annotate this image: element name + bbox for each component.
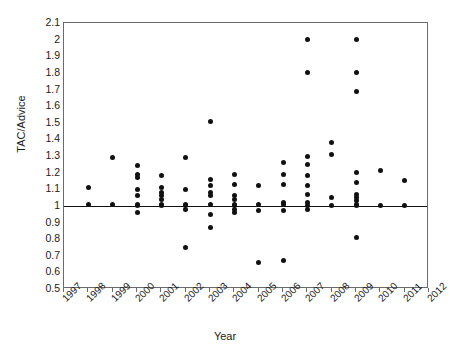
x-tickmark-1999 [112, 288, 113, 292]
data-point [208, 183, 213, 188]
data-point [402, 203, 407, 208]
x-tickmark-2004 [233, 288, 234, 292]
data-point [354, 170, 359, 175]
data-point [135, 187, 140, 192]
data-point [281, 202, 286, 207]
x-tickmark-2010 [379, 288, 380, 292]
y-tick-0-7: 0.7 [14, 250, 60, 261]
data-point [281, 258, 286, 263]
data-point [305, 162, 310, 167]
data-point [402, 178, 407, 183]
data-point [110, 155, 115, 160]
data-point [86, 185, 91, 190]
data-point [305, 207, 310, 212]
data-point [232, 197, 237, 202]
x-tickmark-2001 [160, 288, 161, 292]
x-tickmark-2008 [331, 288, 332, 292]
data-point [208, 212, 213, 217]
y-tick-1-4: 1.4 [14, 133, 60, 144]
data-point [208, 119, 213, 124]
y-tick-1: 1 [14, 200, 60, 211]
x-tickmark-2006 [282, 288, 283, 292]
reference-line-at-one [64, 206, 427, 207]
data-point [305, 70, 310, 75]
data-point [354, 89, 359, 94]
data-point [135, 193, 140, 198]
y-tick-1-1: 1.1 [14, 183, 60, 194]
y-tick-0-6: 0.6 [14, 266, 60, 277]
data-point [232, 182, 237, 187]
data-point [281, 208, 286, 213]
data-point [281, 160, 286, 165]
data-point [135, 203, 140, 208]
data-point [256, 208, 261, 213]
data-point [86, 202, 91, 207]
x-tickmark-2005 [258, 288, 259, 292]
data-point [110, 202, 115, 207]
data-point [329, 152, 334, 157]
y-tick-1-9: 1.9 [14, 50, 60, 61]
y-tick-2-1: 2.1 [14, 17, 60, 28]
data-point [159, 197, 164, 202]
data-point [159, 173, 164, 178]
y-tick-1-3: 1.3 [14, 150, 60, 161]
y-tick-1-8: 1.8 [14, 67, 60, 78]
data-point [329, 203, 334, 208]
data-point [354, 37, 359, 42]
x-tickmark-2007 [306, 288, 307, 292]
x-tickmark-2009 [355, 288, 356, 292]
data-point [281, 172, 286, 177]
y-tick-0-9: 0.9 [14, 216, 60, 227]
data-point [305, 154, 310, 159]
data-point [135, 163, 140, 168]
data-point [378, 168, 383, 173]
data-point [232, 210, 237, 215]
data-point [183, 245, 188, 250]
data-point [256, 202, 261, 207]
data-point [208, 193, 213, 198]
plot-area [63, 22, 428, 288]
data-point [256, 260, 261, 265]
data-point [305, 37, 310, 42]
data-point [208, 225, 213, 230]
data-point [135, 175, 140, 180]
data-point [354, 70, 359, 75]
data-point [232, 172, 237, 177]
data-point [305, 192, 310, 197]
data-point [354, 203, 359, 208]
data-point [159, 203, 164, 208]
y-tick-1-7: 1.7 [14, 83, 60, 94]
y-tick-1-6: 1.6 [14, 100, 60, 111]
x-tickmark-1998 [87, 288, 88, 292]
y-tick-0-8: 0.8 [14, 233, 60, 244]
x-tickmark-2002 [185, 288, 186, 292]
x-tickmark-2011 [404, 288, 405, 292]
data-point [329, 195, 334, 200]
data-point [354, 180, 359, 185]
data-point [378, 203, 383, 208]
data-point [329, 140, 334, 145]
data-point [183, 187, 188, 192]
x-tickmark-2003 [209, 288, 210, 292]
y-tick-1-2: 1.2 [14, 166, 60, 177]
data-point [305, 183, 310, 188]
data-point [354, 235, 359, 240]
data-point [256, 183, 261, 188]
x-tickmark-2000 [136, 288, 137, 292]
x-tick-2012: 2012 [425, 280, 449, 304]
data-point [135, 210, 140, 215]
x-tickmark-1997 [63, 288, 64, 292]
y-tick-1-5: 1.5 [14, 117, 60, 128]
data-point [183, 207, 188, 212]
scatter-chart-figure: TAC/Advice 0.50.60.70.80.911.11.21.31.41… [0, 0, 450, 353]
data-point [208, 177, 213, 182]
data-point [208, 202, 213, 207]
data-point [183, 155, 188, 160]
data-point [305, 173, 310, 178]
y-tick-2: 2 [14, 33, 60, 44]
x-axis-label: Year [0, 330, 450, 342]
x-tickmark-2012 [428, 288, 429, 292]
data-point [281, 182, 286, 187]
